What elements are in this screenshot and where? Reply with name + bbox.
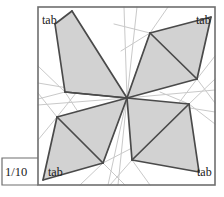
corner-label-top-right: tab — [196, 14, 211, 26]
crease-line-32 — [132, 160, 150, 185]
crease-pattern-figure: tab tab tab tab 1/10 — [0, 0, 224, 197]
corner-label-bottom-left: tab — [48, 166, 63, 178]
crease-line-27 — [189, 79, 215, 104]
corner-label-top-left: tab — [42, 14, 57, 26]
diagram-canvas — [0, 0, 224, 197]
crease-line-15 — [114, 24, 150, 33]
scale-label: 1/10 — [5, 166, 27, 179]
corner-label-bottom-right: tab — [197, 166, 212, 178]
crease-line-29 — [189, 104, 215, 124]
crease-line-25 — [103, 163, 125, 185]
crease-line-0 — [124, 7, 127, 98]
